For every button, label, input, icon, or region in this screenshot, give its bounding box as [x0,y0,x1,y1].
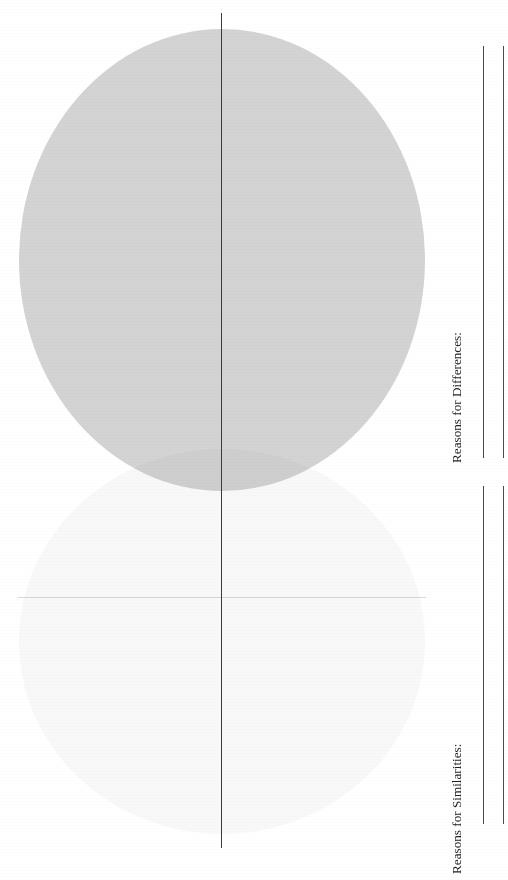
section-reasons-for-differences: Reasons for Differences: [432,0,508,470]
venn-circle-upper[interactable] [19,29,425,491]
label-reasons-for-similarities: Reasons for Similarities: [432,474,508,880]
section-reasons-for-similarities: Reasons for Similarities: [432,474,508,880]
prompt-panel: Reasons for Differences: Reasons for Sim… [432,0,508,880]
label-text-differences: Reasons for Differences: [449,332,465,463]
writing-line-similarities-1[interactable] [483,486,484,824]
venn-circle-lower[interactable] [19,449,425,834]
writing-line-differences-2[interactable] [503,46,504,458]
faint-horizontal-rule [18,597,426,598]
writing-line-differences-1[interactable] [483,46,484,458]
venn-diagram [0,0,440,880]
writing-line-similarities-2[interactable] [503,486,504,824]
worksheet-page: Reasons for Differences: Reasons for Sim… [0,0,508,880]
label-text-similarities: Reasons for Similarities: [449,744,465,874]
center-fold-line [221,13,222,848]
label-reasons-for-differences: Reasons for Differences: [432,0,508,470]
